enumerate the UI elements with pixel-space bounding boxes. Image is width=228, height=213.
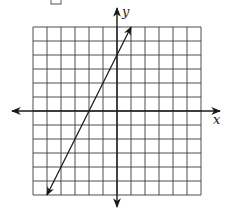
y-axis-label: y — [121, 4, 130, 19]
answer-box — [51, 0, 61, 4]
x-axis-label: x — [213, 112, 221, 127]
coordinate-plane: y x — [0, 0, 228, 213]
